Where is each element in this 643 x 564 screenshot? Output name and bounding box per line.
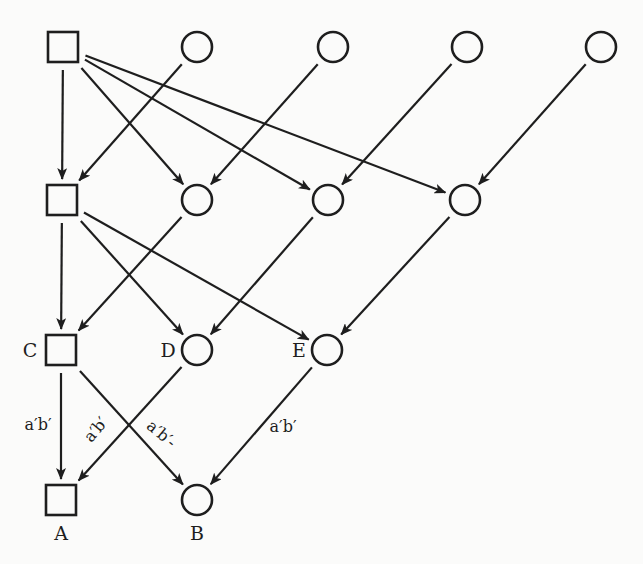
edge-s2-to-C [61, 223, 62, 329]
circle-node-c12 [318, 32, 348, 62]
edge-label-C-to-A: a′b′ [24, 415, 51, 434]
edge-s1-to-c21 [81, 68, 183, 184]
edge-c14-to-c23 [479, 64, 586, 184]
edge-s2-to-D [81, 221, 183, 334]
circle-node-c21 [182, 185, 212, 215]
edge-s1-to-s2 [62, 70, 63, 179]
edge-c12-to-c21 [211, 64, 318, 184]
node-label-E: E [292, 339, 306, 361]
circle-node-B [182, 485, 212, 515]
edge-label-E-to-B: a′b′ [269, 417, 296, 436]
edge-c13-to-c22 [342, 64, 451, 184]
pedigree-diagram: a′b′a′b′-a′b′a′b′CDEAB [0, 0, 643, 564]
edge-label-D-to-A: a′b′ [80, 413, 112, 446]
edge-c22-to-D [211, 217, 313, 334]
circle-node-c14 [586, 32, 616, 62]
square-node-C [46, 335, 76, 365]
edge-s2-to-E [84, 212, 309, 339]
circle-node-D [182, 335, 212, 365]
circle-node-c11 [182, 32, 212, 62]
circle-node-c22 [313, 185, 343, 215]
edge-E-to-B [211, 367, 312, 484]
edge-c23-to-E [341, 217, 449, 335]
node-label-A: A [53, 522, 68, 544]
node-label-D: D [160, 339, 175, 361]
circle-node-c13 [452, 32, 482, 62]
circle-node-E [312, 335, 342, 365]
square-node-s1 [48, 32, 78, 62]
square-node-A [46, 485, 76, 515]
edge-s1-to-c22 [85, 60, 310, 190]
node-label-C: C [23, 339, 38, 361]
node-label-B: B [190, 522, 204, 544]
circle-node-c23 [450, 185, 480, 215]
square-node-s2 [47, 185, 77, 215]
